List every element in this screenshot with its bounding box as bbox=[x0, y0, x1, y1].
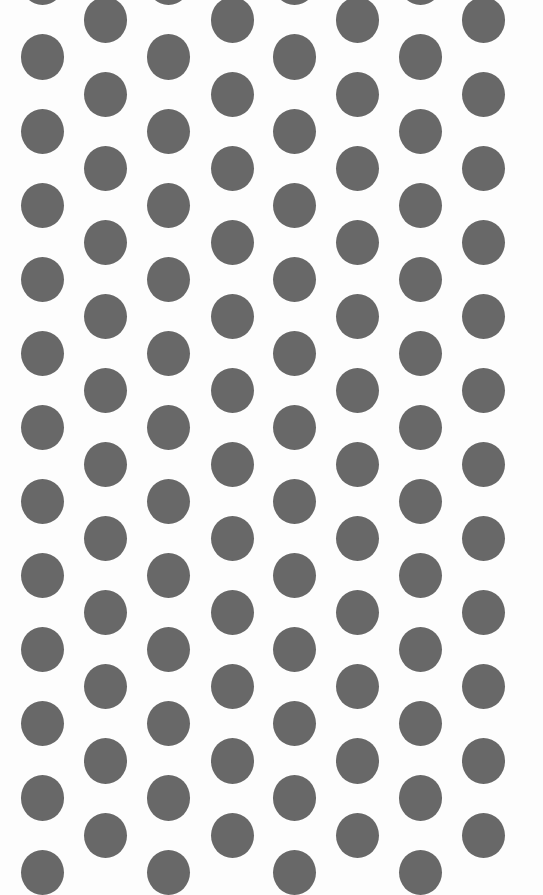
polka-dot bbox=[147, 553, 190, 598]
polka-dot bbox=[21, 331, 64, 376]
polka-dot bbox=[462, 442, 505, 487]
polka-dot bbox=[336, 0, 379, 43]
polka-dot bbox=[336, 294, 379, 339]
polka-dot bbox=[273, 405, 316, 450]
polka-dot bbox=[399, 553, 442, 598]
polka-dot bbox=[211, 590, 254, 635]
polka-dot bbox=[84, 294, 127, 339]
polka-dot bbox=[211, 294, 254, 339]
polka-dot bbox=[21, 0, 64, 5]
polka-dot bbox=[147, 775, 190, 820]
polka-dot bbox=[273, 109, 316, 154]
polka-dot bbox=[399, 34, 442, 79]
polka-dot bbox=[462, 220, 505, 265]
polka-dot bbox=[211, 442, 254, 487]
polka-dot bbox=[21, 850, 64, 895]
polka-dot bbox=[273, 34, 316, 79]
polka-dot bbox=[273, 850, 316, 895]
polka-dot bbox=[147, 850, 190, 895]
polka-dot bbox=[211, 664, 254, 709]
polka-dot bbox=[399, 627, 442, 672]
polka-dot bbox=[462, 0, 505, 43]
polka-dot bbox=[21, 405, 64, 450]
polka-dot bbox=[211, 72, 254, 117]
polka-dot bbox=[273, 479, 316, 524]
polka-dot bbox=[147, 627, 190, 672]
polka-dot bbox=[399, 0, 442, 5]
polka-dot bbox=[21, 775, 64, 820]
polka-dot bbox=[462, 368, 505, 413]
polka-dot bbox=[211, 220, 254, 265]
polka-dot bbox=[21, 257, 64, 302]
polka-dot bbox=[21, 701, 64, 746]
polka-dot bbox=[84, 146, 127, 191]
polka-dot bbox=[84, 738, 127, 783]
polka-dot bbox=[336, 220, 379, 265]
polka-dot bbox=[336, 590, 379, 635]
polka-dot bbox=[147, 34, 190, 79]
polka-dot bbox=[21, 627, 64, 672]
polka-dot bbox=[211, 516, 254, 561]
polka-dot bbox=[147, 109, 190, 154]
polka-dot bbox=[147, 479, 190, 524]
polka-dot bbox=[211, 368, 254, 413]
polka-dot bbox=[462, 146, 505, 191]
polka-dot bbox=[399, 257, 442, 302]
polka-dot bbox=[399, 775, 442, 820]
polka-dot bbox=[147, 183, 190, 228]
polka-dot bbox=[273, 331, 316, 376]
polka-dot bbox=[399, 183, 442, 228]
polka-dot bbox=[21, 479, 64, 524]
polka-dot bbox=[84, 813, 127, 858]
polka-dot bbox=[84, 516, 127, 561]
polka-dot bbox=[211, 146, 254, 191]
polka-dot bbox=[84, 0, 127, 43]
polka-dot bbox=[336, 738, 379, 783]
polka-dot bbox=[84, 590, 127, 635]
polka-dot bbox=[462, 294, 505, 339]
polka-dot bbox=[211, 813, 254, 858]
polka-dot bbox=[211, 0, 254, 43]
polka-dot bbox=[273, 183, 316, 228]
polka-dot bbox=[462, 738, 505, 783]
polka-dot bbox=[84, 220, 127, 265]
polka-dot bbox=[336, 442, 379, 487]
polka-dot bbox=[21, 183, 64, 228]
polka-dot bbox=[336, 664, 379, 709]
polka-dot bbox=[462, 664, 505, 709]
polka-dot bbox=[399, 701, 442, 746]
polka-dot bbox=[273, 701, 316, 746]
polka-dot bbox=[462, 516, 505, 561]
polka-dot bbox=[399, 479, 442, 524]
polka-dot bbox=[147, 405, 190, 450]
polka-dot bbox=[336, 72, 379, 117]
polka-dot bbox=[462, 72, 505, 117]
polka-dot bbox=[147, 257, 190, 302]
polka-dot bbox=[21, 553, 64, 598]
polka-dot bbox=[273, 627, 316, 672]
polka-dot bbox=[273, 553, 316, 598]
polka-dot bbox=[399, 331, 442, 376]
polka-dot bbox=[84, 72, 127, 117]
polka-dot bbox=[147, 331, 190, 376]
polka-dot bbox=[399, 405, 442, 450]
polka-dot bbox=[84, 664, 127, 709]
polka-dot bbox=[273, 775, 316, 820]
polka-dot bbox=[21, 109, 64, 154]
polka-dot bbox=[273, 257, 316, 302]
polka-dot bbox=[147, 0, 190, 5]
polka-dot bbox=[336, 516, 379, 561]
polka-dot bbox=[336, 368, 379, 413]
polka-dot bbox=[273, 0, 316, 5]
polka-dot bbox=[399, 850, 442, 895]
polka-dot bbox=[84, 368, 127, 413]
polka-dot bbox=[21, 34, 64, 79]
polka-dot bbox=[462, 590, 505, 635]
polka-dot bbox=[462, 813, 505, 858]
polka-dot bbox=[399, 109, 442, 154]
polka-dot bbox=[336, 146, 379, 191]
polka-dot bbox=[336, 813, 379, 858]
polka-dot bbox=[84, 442, 127, 487]
polka-dot bbox=[211, 738, 254, 783]
